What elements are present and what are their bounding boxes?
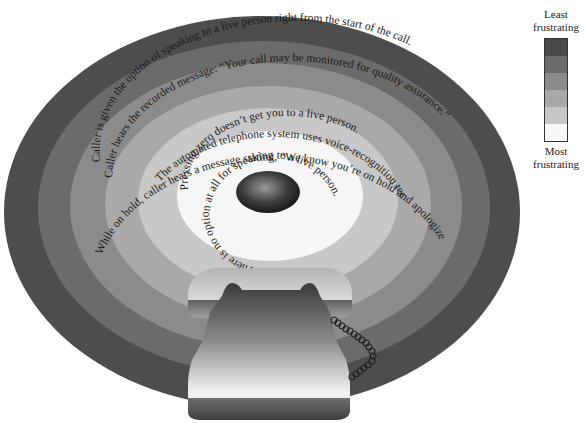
legend-swatch-4 xyxy=(545,90,567,107)
legend-bottom-label-line1: Most xyxy=(528,145,584,158)
legend-top-label-line2: frustrating xyxy=(528,21,584,34)
legend: Least frustrating Most frustrating xyxy=(528,8,584,171)
legend-swatch-1 xyxy=(545,39,567,56)
legend-swatch-3 xyxy=(545,73,567,90)
legend-color-bar xyxy=(544,38,568,142)
legend-swatch-6 xyxy=(545,124,567,141)
legend-swatch-5 xyxy=(545,107,567,124)
legend-bottom-label-line2: frustrating xyxy=(528,158,584,171)
frustration-diagram: Caller is given the option of speaking t… xyxy=(0,0,585,423)
legend-swatch-2 xyxy=(545,56,567,73)
legend-top-label-line1: Least xyxy=(528,8,584,21)
earpiece-hole xyxy=(236,171,300,213)
